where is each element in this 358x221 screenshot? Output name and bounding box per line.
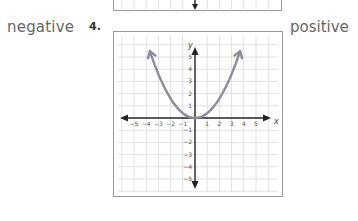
x-axis-right-arrow-icon	[263, 115, 271, 122]
y-tick-label: −4	[183, 163, 192, 170]
x-tick-label: −5	[130, 120, 139, 127]
y-axis-down-arrow-icon	[192, 181, 199, 189]
x-tick-label: 1	[205, 120, 209, 127]
x-axis-label: x	[273, 117, 279, 126]
y-tick-label: −2	[183, 138, 192, 145]
coordinate-plane: xy−5−4−3−2−11234554321−1−2−3−4−5	[0, 0, 358, 221]
x-axis-left-arrow-icon	[120, 115, 128, 122]
y-tick-label: 1	[188, 102, 192, 109]
y-axis-label: y	[187, 41, 193, 50]
y-tick-label: −3	[183, 151, 192, 158]
x-tick-label: 2	[217, 120, 221, 127]
y-tick-label: 2	[188, 90, 192, 97]
x-tick-label: −3	[154, 120, 163, 127]
x-tick-label: 5	[254, 120, 258, 127]
x-tick-label: −4	[142, 120, 151, 127]
x-tick-label: −2	[166, 120, 175, 127]
x-tick-label: 4	[242, 120, 246, 127]
x-tick-label: 3	[230, 120, 234, 127]
y-tick-label: 3	[188, 77, 192, 84]
prev-arrow-down-icon	[192, 4, 198, 10]
y-tick-label: −1	[183, 126, 192, 133]
y-tick-label: −5	[183, 175, 192, 182]
y-tick-label: 5	[188, 53, 192, 60]
y-tick-label: 4	[188, 65, 192, 72]
